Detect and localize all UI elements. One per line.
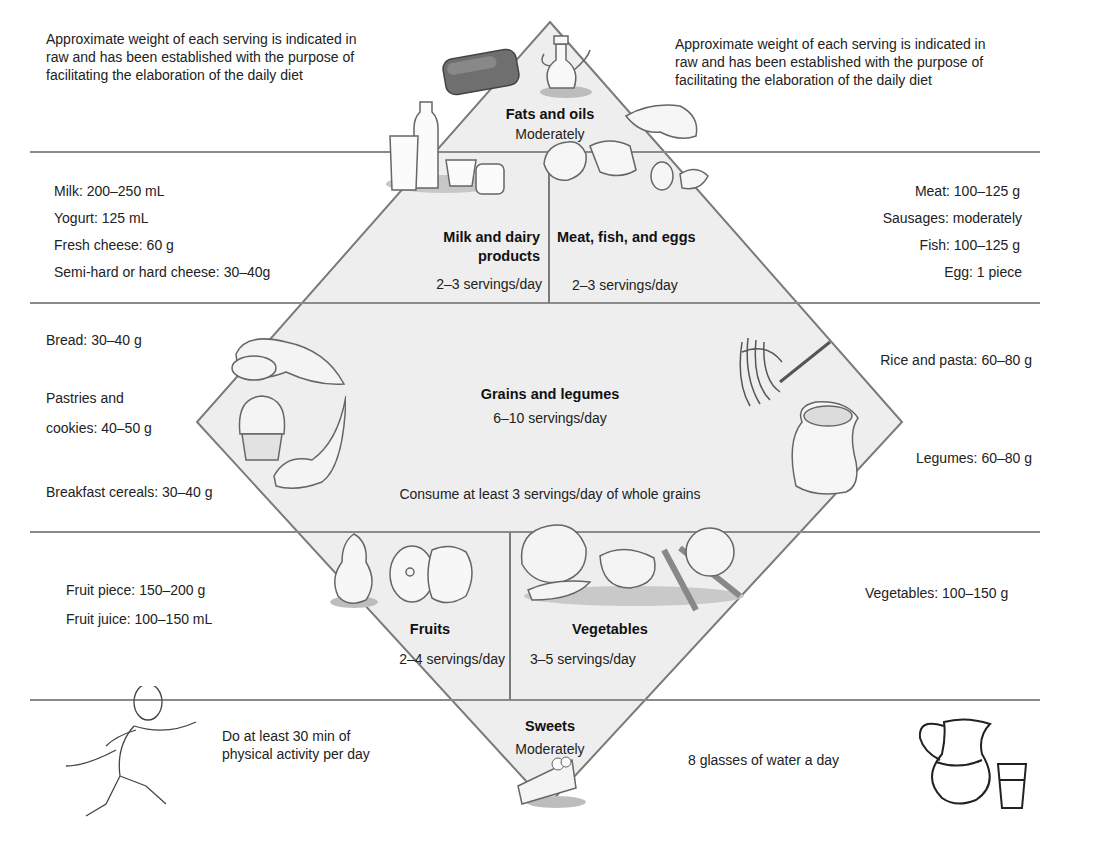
jar-icon: [476, 164, 504, 194]
meat-item: Egg: 1 piece: [820, 264, 1022, 281]
tomato-icon: [686, 528, 734, 576]
chicken-icon: [544, 142, 586, 180]
dairy-title-2: products: [390, 248, 540, 265]
meat-title: Meat, fish, and eggs: [557, 229, 696, 246]
sweets-title: Sweets: [480, 718, 620, 735]
vegetables-item: Vegetables: 100–150 g: [865, 585, 1008, 602]
pasta-fork-icon: [740, 338, 782, 406]
egg-yolk-icon: [680, 169, 708, 188]
muffin-icon: [239, 396, 284, 434]
dairy-title: Milk and dairy: [390, 229, 540, 246]
meat-cut-icon: [590, 141, 636, 176]
water-pitcher-icon: [932, 719, 990, 803]
cake-slice-icon: [512, 752, 592, 812]
grains-servings: 6–10 servings/day: [420, 410, 680, 427]
dairy-item: Semi-hard or hard cheese: 30–40g: [54, 264, 270, 281]
glass-icon: [390, 136, 418, 190]
butter-icon: [441, 48, 520, 96]
dairy-item: Yogurt: 125 mL: [54, 210, 148, 227]
pear-icon: [335, 534, 372, 603]
grains-whole-grain-note: Consume at least 3 servings/day of whole…: [330, 486, 770, 503]
vegetables-servings: 3–5 servings/day: [530, 651, 636, 668]
serving-note-left: Approximate weight of each serving is in…: [46, 30, 386, 84]
vegetables-title: Vegetables: [540, 621, 680, 638]
fats-title: Fats and oils: [470, 106, 630, 123]
dairy-servings: 2–3 servings/day: [390, 276, 542, 293]
meat-item: Fish: 100–125 g: [820, 237, 1020, 254]
grains-right-icons: [736, 322, 866, 502]
fish-icon: [626, 105, 697, 138]
meat-servings: 2–3 servings/day: [572, 277, 678, 294]
grains-title: Grains and legumes: [420, 386, 680, 403]
activity-note-line2: physical activity per day: [222, 746, 370, 763]
potato-icon: [600, 549, 655, 588]
yogurt-icon: [446, 160, 476, 186]
meat-item: Sausages: moderately: [820, 210, 1022, 227]
water-icons: [916, 714, 1036, 810]
water-note: 8 glasses of water a day: [688, 752, 839, 769]
grains-item: Bread: 30–40 g: [46, 332, 142, 349]
dairy-item: Fresh cheese: 60 g: [54, 237, 174, 254]
grains-item: cookies: 40–50 g: [46, 420, 152, 437]
runner-icon: [46, 686, 216, 826]
food-pyramid-diagram: Approximate weight of each serving is in…: [0, 0, 1099, 849]
fruits-servings: 2–4 servings/day: [350, 651, 505, 668]
fruit-icons: [328, 522, 498, 612]
vegetable-icons: [514, 512, 754, 612]
cereal-spoon-icon: [274, 396, 346, 488]
water-glass-icon: [998, 764, 1026, 808]
oil-cruet-icon: [540, 36, 592, 98]
apple-icon: [428, 546, 472, 602]
serving-note-right: Approximate weight of each serving is in…: [675, 35, 1035, 89]
dairy-item: Milk: 200–250 mL: [54, 183, 165, 200]
sweets-subtitle: Moderately: [480, 741, 620, 758]
grains-item: Breakfast cereals: 30–40 g: [46, 484, 213, 501]
fruits-item: Fruit piece: 150–200 g: [66, 582, 205, 599]
meat-item: Meat: 100–125 g: [820, 183, 1020, 200]
grains-left-icons: [226, 326, 346, 506]
fruits-title: Fruits: [380, 621, 480, 638]
cauliflower-icon: [522, 525, 587, 583]
grains-item: Legumes: 60–80 g: [830, 450, 1032, 467]
fruits-item: Fruit juice: 100–150 mL: [66, 611, 212, 628]
activity-note-line1: Do at least 30 min of: [222, 728, 350, 745]
grains-item: Rice and pasta: 60–80 g: [830, 352, 1032, 369]
egg-icon: [651, 162, 673, 190]
grains-item: Pastries and: [46, 390, 124, 407]
fats-subtitle: Moderately: [470, 126, 630, 143]
